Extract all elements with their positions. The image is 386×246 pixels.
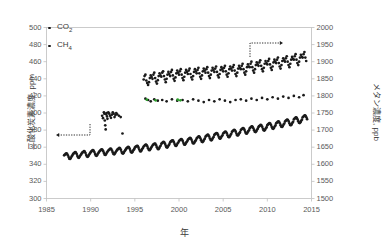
data-point <box>154 99 157 102</box>
data-point <box>292 120 295 123</box>
data-point <box>218 98 221 101</box>
data-point <box>282 95 285 98</box>
data-point <box>197 67 200 70</box>
data-point <box>226 75 229 78</box>
x-tick-label: 2015 <box>297 205 327 214</box>
data-point <box>229 101 232 104</box>
data-point <box>289 62 292 65</box>
data-point <box>192 75 195 78</box>
x-tick-label: 1990 <box>76 205 106 214</box>
data-point <box>239 98 242 101</box>
data-point <box>142 78 145 81</box>
data-point <box>271 96 274 99</box>
y-tick-label-right: 1750 <box>317 108 347 117</box>
x-tick-label: 1995 <box>120 205 150 214</box>
data-point <box>232 64 235 67</box>
data-point <box>183 75 186 78</box>
data-point <box>266 98 269 101</box>
series-CH4-low-scatter <box>144 94 305 104</box>
y-tick-label-left: 460 <box>16 57 42 66</box>
data-point <box>208 99 211 102</box>
data-point <box>192 98 195 101</box>
data-point <box>145 79 148 82</box>
y-tick-label-left: 300 <box>16 194 42 203</box>
data-point <box>171 69 174 72</box>
data-point <box>260 64 263 67</box>
data-point <box>284 60 287 63</box>
y-tick-label-left: 440 <box>16 74 42 83</box>
data-point <box>171 74 174 77</box>
legend-marker-co2 <box>48 27 51 30</box>
data-point <box>242 68 245 71</box>
data-point <box>186 73 189 76</box>
data-point <box>292 95 295 98</box>
y-tick-label-left: 500 <box>16 23 42 32</box>
data-point <box>251 66 254 69</box>
data-point <box>195 72 198 75</box>
data-point <box>200 77 203 80</box>
data-point <box>201 74 204 77</box>
data-point <box>164 81 167 84</box>
x-tick-label: 2005 <box>208 205 238 214</box>
y-tick-label-left: 480 <box>16 40 42 49</box>
y-tick-label-right: 1950 <box>317 40 347 49</box>
data-point <box>235 75 238 78</box>
data-point <box>244 73 247 76</box>
y-tick-label-left: 420 <box>16 91 42 100</box>
data-point <box>231 69 234 72</box>
data-point <box>165 77 168 80</box>
data-point <box>165 100 168 103</box>
data-point <box>227 72 230 75</box>
data-point <box>191 78 194 81</box>
data-point <box>206 66 209 69</box>
data-point <box>173 80 176 83</box>
y-tick-label-right: 1500 <box>317 194 347 203</box>
data-point <box>224 99 227 102</box>
data-point <box>162 70 165 73</box>
data-point <box>216 71 219 74</box>
y-tick-label-right: 2000 <box>317 23 347 32</box>
data-point <box>215 65 218 68</box>
y-tick-label-left: 380 <box>16 125 42 134</box>
data-point <box>224 64 227 67</box>
data-point <box>156 79 159 82</box>
data-point <box>209 73 212 76</box>
data-point <box>148 81 151 84</box>
y-tick-label-left: 360 <box>16 142 42 151</box>
data-point <box>180 73 183 76</box>
data-point <box>174 76 177 79</box>
ch4-axis-arrow-line <box>250 43 281 57</box>
y-tick-label-right: 1800 <box>317 91 347 100</box>
data-point <box>279 67 282 70</box>
data-point <box>268 58 271 61</box>
data-point <box>280 64 283 67</box>
data-point <box>182 79 185 82</box>
data-point <box>250 60 253 63</box>
data-point <box>275 62 278 65</box>
y-tick-label-left: 400 <box>16 108 42 117</box>
data-point <box>179 68 182 71</box>
data-point <box>245 99 248 102</box>
data-point <box>198 72 201 75</box>
y-tick-label-right: 1700 <box>317 125 347 134</box>
x-tick-label: 1985 <box>32 205 62 214</box>
data-point <box>161 99 164 102</box>
data-point <box>266 63 269 66</box>
data-point <box>277 56 280 59</box>
data-point <box>270 69 273 72</box>
data-point <box>255 99 258 102</box>
data-point <box>245 70 248 73</box>
data-point <box>241 62 244 65</box>
data-point <box>254 68 257 71</box>
y-tick-label-right: 1850 <box>317 74 347 83</box>
data-point <box>163 75 166 78</box>
data-point <box>121 132 124 135</box>
data-point <box>261 97 264 100</box>
data-point <box>277 97 280 100</box>
data-point <box>269 63 272 66</box>
data-point <box>156 82 159 85</box>
data-point <box>145 98 148 101</box>
data-point <box>257 64 260 67</box>
data-point <box>236 71 239 74</box>
